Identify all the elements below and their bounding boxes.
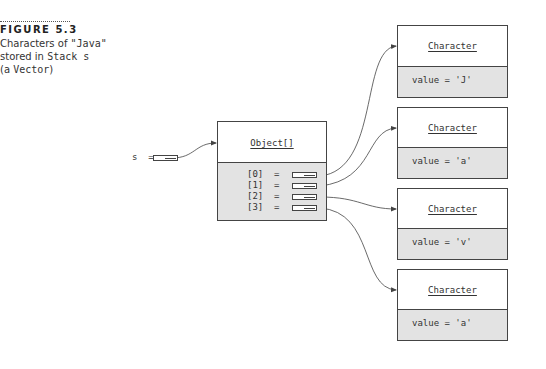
character-header: Character [398, 270, 507, 311]
arrow-slot3 [320, 208, 396, 290]
variable-s-label: s = [132, 152, 154, 162]
array-object-box: Object[] [0] = [1] = [2] = [3] = [217, 121, 327, 221]
arrow-slot2 [320, 197, 396, 209]
character-value: value = 'v' [412, 237, 472, 247]
character-class-name-text: Character [428, 41, 477, 51]
character-value: value = 'a' [412, 318, 472, 328]
slot-2-label: [2] = [247, 191, 280, 201]
character-class-name: Character [398, 204, 507, 214]
character-fields: value = 'J' [398, 66, 507, 97]
character-class-name-text: Character [428, 285, 477, 295]
character-header: Character [398, 26, 507, 68]
character-class-name-text: Character [428, 123, 477, 133]
character-class-name-text: Character [428, 204, 477, 214]
character-box-2: Character value = 'v' [397, 188, 508, 260]
character-fields: value = 'a' [398, 147, 507, 178]
slot-3-pointer [292, 205, 317, 211]
variable-s-pointer [153, 155, 178, 161]
slot-0-pointer [292, 172, 317, 178]
character-value: value = 'J' [412, 75, 472, 85]
slot-2-pointer [292, 194, 317, 200]
slot-0-label: [0] = [247, 169, 280, 179]
character-fields: value = 'v' [398, 228, 507, 259]
character-box-0: Character value = 'J' [397, 25, 508, 98]
character-class-name: Character [398, 41, 507, 51]
arrow-slot1 [320, 128, 396, 186]
array-object-fields: [0] = [1] = [2] = [3] = [218, 162, 326, 220]
slot-1-label: [1] = [247, 180, 280, 190]
character-class-name: Character [398, 123, 507, 133]
slot-3-label: [3] = [247, 202, 280, 212]
character-header: Character [398, 189, 507, 230]
character-box-3: Character value = 'a' [397, 269, 508, 341]
array-object-header: Object[] [218, 122, 326, 164]
array-class-name-text: Object[] [250, 138, 293, 148]
array-class-name: Object[] [218, 138, 326, 148]
character-value: value = 'a' [412, 156, 472, 166]
arrow-s-to-array [172, 143, 216, 158]
character-box-1: Character value = 'a' [397, 107, 508, 179]
arrow-slot0 [320, 46, 396, 176]
character-fields: value = 'a' [398, 309, 507, 340]
character-class-name: Character [398, 285, 507, 295]
character-header: Character [398, 108, 507, 149]
slot-1-pointer [292, 183, 317, 189]
